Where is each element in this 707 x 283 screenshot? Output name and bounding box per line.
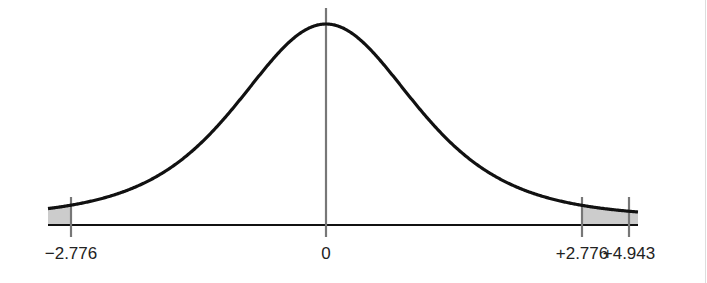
tick-label-pos-critical: +2.776 (556, 244, 608, 264)
t-distribution-chart (0, 0, 707, 283)
tick-label-zero: 0 (321, 244, 330, 264)
tick-label-neg-critical: −2.776 (45, 244, 97, 264)
density-curve (48, 24, 638, 212)
tick-label-test-statistic: +4.943 (603, 244, 655, 264)
right-border (705, 0, 706, 283)
